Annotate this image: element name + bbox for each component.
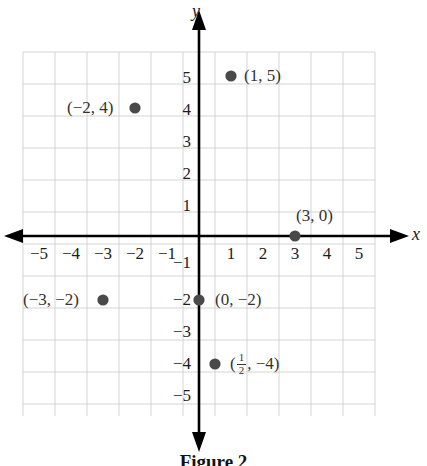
- x-axis-label: x: [412, 225, 420, 243]
- fraction-numerator: 1: [237, 352, 247, 365]
- y-tick-label-5: 5: [155, 69, 191, 86]
- x-tick-label-2: 2: [247, 245, 279, 262]
- y-tick-label-4: 4: [155, 101, 191, 118]
- y-tick-label-3: 3: [155, 133, 191, 150]
- point-label-neg2-4: (−2, 4): [67, 99, 113, 116]
- y-axis-label: y: [192, 2, 200, 20]
- y-tick-label--4: −4: [155, 355, 191, 372]
- y-tick-label--2: −2: [155, 291, 191, 308]
- point-3-0: [289, 230, 300, 241]
- x-tick-label-4: 4: [311, 245, 343, 262]
- x-tick-label--4: −4: [55, 245, 87, 262]
- x-axis-arrow-right: [390, 229, 409, 243]
- fraction-one-half: 12: [237, 352, 247, 376]
- coordinate-plane-figure: y x −5 −4 −3 −2 −1 1 2 3 4 5 5 4 3 2 1 −…: [0, 0, 427, 466]
- y-axis-arrow-down: [192, 432, 206, 452]
- point-neg3-neg2: [97, 294, 108, 305]
- x-tick-label-5: 5: [343, 245, 375, 262]
- x-tick-label--3: −3: [87, 245, 119, 262]
- y-tick-label--3: −3: [155, 323, 191, 340]
- point-label-neg3-neg2: (−3, −2): [23, 291, 79, 308]
- coordinate-plane-graph: [0, 0, 427, 466]
- y-tick-label--1: −1: [155, 254, 191, 271]
- point-label-1-5: (1, 5): [244, 67, 281, 84]
- point-label-3-0: (3, 0): [296, 207, 333, 224]
- x-axis-arrow-left: [4, 229, 23, 243]
- fraction-denominator: 2: [237, 365, 247, 377]
- x-tick-label-1: 1: [215, 245, 247, 262]
- point-0-neg2: [193, 294, 204, 305]
- x-tick-label--2: −2: [119, 245, 151, 262]
- axis-arrowheads: [4, 10, 409, 452]
- paren-close-and-y: , −4): [247, 354, 279, 373]
- point-half-neg4: [209, 358, 220, 369]
- axis-lines: [14, 22, 398, 441]
- y-tick-label--5: −5: [155, 387, 191, 404]
- x-tick-label--5: −5: [23, 245, 55, 262]
- x-tick-label-3: 3: [279, 245, 311, 262]
- y-tick-label-1: 1: [155, 197, 191, 214]
- point-label-0-neg2: (0, −2): [215, 291, 261, 308]
- figure-caption: Figure 2: [0, 451, 427, 466]
- paren-open: (: [230, 354, 236, 373]
- y-tick-label-2: 2: [155, 165, 191, 182]
- point-1-5: [225, 70, 236, 81]
- point-label-half-neg4: (12, −4): [230, 353, 279, 377]
- point-neg2-4: [129, 102, 140, 113]
